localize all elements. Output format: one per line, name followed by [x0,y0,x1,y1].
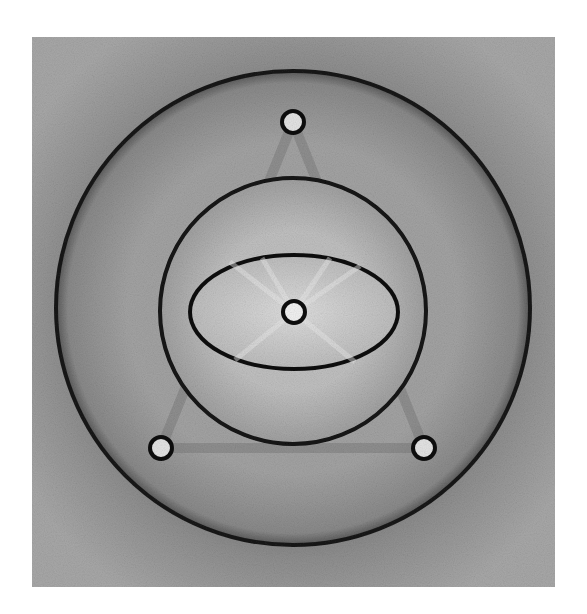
bottom-right-hole-icon [413,437,435,459]
top-hole-icon [282,111,304,133]
photoelastic-figure [0,0,587,614]
bottom-left-hole-icon [150,437,172,459]
center-hole-icon [283,301,305,323]
